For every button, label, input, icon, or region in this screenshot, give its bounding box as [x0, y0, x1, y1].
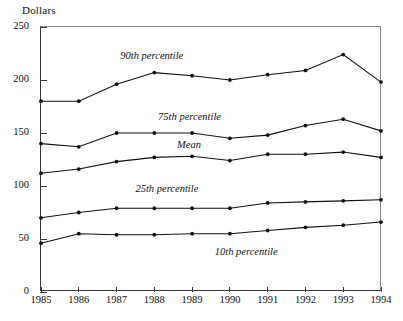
series-10th-percentile [39, 220, 383, 245]
data-point [228, 78, 232, 82]
data-point [266, 133, 270, 137]
x-axis-tick-label: 1985 [31, 294, 52, 305]
data-point [228, 206, 232, 210]
data-point [190, 206, 194, 210]
data-point [115, 82, 119, 86]
x-axis-tick-label: 1990 [219, 294, 240, 305]
data-point [266, 229, 270, 233]
data-point [115, 131, 119, 135]
data-point [39, 241, 43, 245]
y-axis-tick-label: 100 [13, 179, 29, 190]
data-point [152, 131, 156, 135]
series-annotation: 90th percentile [120, 50, 183, 61]
x-axis-tick-label: 1989 [182, 294, 203, 305]
data-point [304, 69, 308, 73]
data-point [77, 99, 81, 103]
data-point [152, 71, 156, 75]
data-point [379, 80, 383, 84]
data-point [379, 198, 383, 202]
data-point [190, 74, 194, 78]
series-line [41, 55, 381, 102]
series-90th-percentile [39, 53, 383, 103]
x-axis-tick-label: 1992 [295, 294, 316, 305]
data-point [115, 206, 119, 210]
series-layer [41, 27, 382, 292]
data-point [304, 124, 308, 128]
data-point [152, 155, 156, 159]
data-point [190, 232, 194, 236]
data-point [266, 201, 270, 205]
plot-area: 0501001502002501985198619871988198919901… [40, 26, 381, 291]
chart-root: Dollars 05010015020025019851986198719881… [0, 0, 403, 321]
data-point [228, 136, 232, 140]
y-axis-title: Dollars [22, 4, 56, 16]
data-point [341, 199, 345, 203]
series-mean [39, 150, 383, 175]
series-line [41, 222, 381, 243]
data-point [115, 233, 119, 237]
plot-inner: 0501001502002501985198619871988198919901… [41, 27, 380, 290]
data-point [190, 154, 194, 158]
data-point [152, 233, 156, 237]
series-line [41, 119, 381, 147]
data-point [77, 167, 81, 171]
data-point [39, 99, 43, 103]
x-axis-tick-label: 1987 [106, 294, 127, 305]
y-axis-tick-label: 50 [19, 232, 30, 243]
data-point [341, 117, 345, 121]
data-point [39, 142, 43, 146]
data-point [77, 211, 81, 215]
y-axis-tick-label: 0 [24, 285, 29, 296]
data-point [304, 152, 308, 156]
data-point [379, 155, 383, 159]
data-point [39, 216, 43, 220]
x-axis-tick-label: 1991 [257, 294, 278, 305]
series-line [41, 152, 381, 173]
data-point [228, 232, 232, 236]
x-axis-tick-label: 1993 [333, 294, 354, 305]
data-point [190, 131, 194, 135]
x-axis-tick-label: 1986 [68, 294, 89, 305]
data-point [304, 200, 308, 204]
data-point [341, 223, 345, 227]
y-axis-tick-label: 200 [13, 73, 29, 84]
data-point [115, 160, 119, 164]
data-point [77, 232, 81, 236]
data-point [77, 145, 81, 149]
data-point [379, 220, 383, 224]
series-annotation: 75th percentile [158, 111, 221, 122]
series-line [41, 200, 381, 218]
x-axis-tick-label: 1994 [371, 294, 392, 305]
data-point [341, 53, 345, 57]
x-axis-tick-label: 1988 [144, 294, 165, 305]
data-point [266, 73, 270, 77]
y-axis-tick-label: 250 [13, 20, 29, 31]
data-point [266, 152, 270, 156]
data-point [379, 129, 383, 133]
data-point [341, 150, 345, 154]
y-axis-tick-label: 150 [13, 126, 29, 137]
data-point [152, 206, 156, 210]
series-25th-percentile [39, 198, 383, 220]
series-annotation: 25th percentile [135, 183, 198, 194]
data-point [39, 171, 43, 175]
data-point [304, 225, 308, 229]
series-annotation: 10th percentile [215, 246, 278, 257]
data-point [228, 159, 232, 163]
series-annotation: Mean [177, 139, 201, 150]
